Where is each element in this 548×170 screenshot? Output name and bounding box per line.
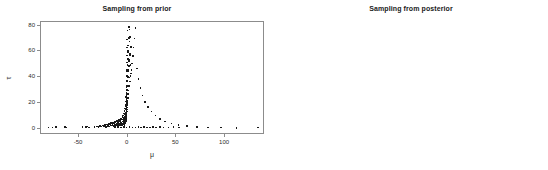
data-point [123, 126, 125, 128]
y-tick-label: 40 [18, 73, 35, 79]
data-point [142, 95, 144, 97]
data-point [155, 127, 157, 129]
data-point [159, 126, 161, 128]
data-point [52, 127, 54, 129]
y-tick [37, 102, 40, 103]
data-point [126, 127, 128, 129]
data-point [133, 47, 135, 49]
data-point [129, 55, 131, 57]
y-tick-label: 80 [18, 22, 35, 28]
data-point [125, 123, 127, 125]
data-point [163, 127, 165, 129]
x-tick [175, 134, 176, 137]
data-point [131, 69, 133, 71]
data-point [146, 127, 148, 129]
data-point [127, 50, 129, 52]
data-point [129, 126, 131, 128]
data-point [120, 127, 122, 129]
data-point [65, 127, 67, 129]
x-tick [224, 134, 225, 137]
x-tick-label: -50 [74, 139, 83, 145]
data-point [134, 38, 136, 40]
data-point [129, 81, 131, 83]
x-axis-title-prior: μ [150, 151, 154, 158]
data-point [127, 45, 129, 47]
data-point [48, 127, 50, 129]
data-point [131, 63, 133, 65]
data-point [126, 39, 128, 41]
plot-frame-prior [40, 21, 264, 134]
y-tick [37, 128, 40, 129]
data-point [88, 127, 90, 129]
data-point [126, 115, 128, 117]
data-point [129, 41, 131, 43]
x-tick-label: 100 [219, 139, 229, 145]
data-point [159, 118, 161, 120]
data-point [132, 127, 134, 129]
data-point [126, 62, 128, 64]
data-point [129, 77, 131, 79]
data-point [132, 55, 134, 57]
data-point [151, 111, 153, 113]
data-point [127, 93, 129, 95]
data-point [149, 127, 151, 129]
data-point [126, 102, 128, 104]
data-point [186, 125, 188, 127]
x-tick [78, 134, 79, 137]
data-point [140, 87, 142, 89]
data-point [178, 124, 180, 126]
data-point [155, 115, 157, 117]
y-tick-label: 60 [18, 47, 35, 53]
data-point [114, 126, 116, 128]
data-point [128, 90, 130, 92]
data-point [126, 104, 128, 106]
data-point [130, 73, 132, 75]
data-point [126, 116, 128, 118]
data-point [82, 126, 84, 128]
data-point [144, 101, 146, 103]
data-point [127, 69, 129, 71]
data-point [126, 113, 128, 115]
data-point [196, 126, 198, 128]
data-point [171, 123, 173, 125]
y-tick [37, 50, 40, 51]
data-point [130, 46, 132, 48]
data-point [135, 27, 137, 29]
data-point [257, 127, 259, 129]
data-point [94, 126, 96, 128]
data-point [125, 119, 127, 121]
data-point [220, 127, 222, 129]
data-point [129, 36, 131, 38]
scatter-points-prior [41, 22, 263, 133]
data-point [55, 126, 57, 128]
data-point [136, 68, 138, 70]
data-point [126, 107, 128, 109]
data-point [135, 127, 137, 129]
data-point [152, 126, 154, 128]
panel-title-prior: Sampling from prior [0, 5, 274, 12]
data-point [127, 100, 129, 102]
data-point [173, 126, 175, 128]
y-axis-title-prior: τ [5, 76, 12, 79]
y-tick [37, 76, 40, 77]
panel-sampling-from-prior: Sampling from prior -50050100020406080 μ… [0, 0, 274, 170]
data-point [147, 106, 149, 108]
panel-title-posterior: Sampling from posterior [274, 5, 548, 12]
data-point [126, 55, 128, 57]
data-point [128, 60, 130, 62]
figure-canvas: Sampling from prior -50050100020406080 μ… [0, 0, 548, 170]
data-point [126, 118, 128, 120]
y-tick-label: 0 [18, 125, 35, 131]
data-point [126, 109, 128, 111]
data-point [128, 71, 130, 73]
data-point [143, 126, 145, 128]
panel-sampling-from-posterior: Sampling from posterior -202460.020.040.… [274, 0, 548, 170]
data-point [164, 121, 166, 123]
data-point [140, 127, 142, 129]
data-point [138, 78, 140, 80]
data-point [126, 111, 128, 113]
data-point [117, 127, 119, 129]
x-tick-label: 50 [172, 139, 179, 145]
data-point [127, 97, 129, 99]
x-tick-label: 0 [125, 139, 128, 145]
